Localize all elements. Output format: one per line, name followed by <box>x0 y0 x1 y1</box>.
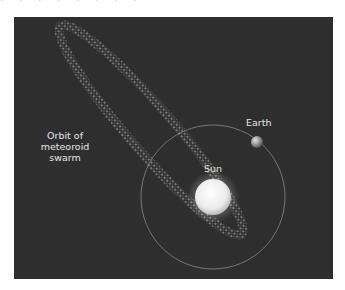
sun-label: Sun <box>204 163 222 174</box>
cut-off-caption-text: . . . . . . . . <box>0 0 345 3</box>
swarm-label-line-1: Orbit of <box>32 130 98 141</box>
sun-icon <box>195 179 231 215</box>
diagram-panel: Orbit of meteoroid swarm Earth Sun <box>14 17 333 279</box>
swarm-label-line-2: meteoroid <box>32 141 98 152</box>
earth-label: Earth <box>246 117 271 128</box>
meteoroid-swarm-label: Orbit of meteoroid swarm <box>32 130 98 163</box>
swarm-label-line-3: swarm <box>32 152 98 163</box>
earth-icon <box>251 136 263 148</box>
